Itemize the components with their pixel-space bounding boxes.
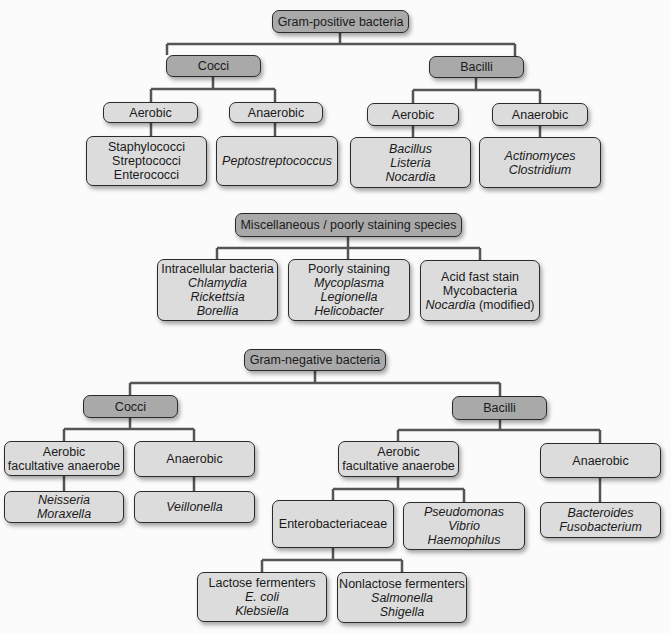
gp-bacilli-aerobic-examples: Bacillus Listeria Nocardia	[350, 137, 471, 188]
gn-bacilli-anaerobic-node: Anaerobic	[540, 443, 661, 478]
gp-cocci-aerobic-examples: Staphylococci Streptococci Enterococci	[86, 136, 207, 186]
gp-bacilli-aerobic-node: Aerobic	[367, 103, 459, 126]
gp-bacilli-anaerobic-examples: Actinomyces Clostridium	[479, 137, 601, 188]
gram-positive-node: Gram-positive bacteria	[272, 10, 409, 33]
gram-negative-bacilli-node: Bacilli	[452, 396, 547, 420]
nonlactose-fermenters-node: Nonlactose fermenters Salmonella Shigell…	[337, 572, 467, 623]
misc-poorly-staining-node: Poorly staining Mycoplasma Legionella He…	[288, 259, 410, 321]
diagram-canvas: Gram-positive bacteria Cocci Bacilli Aer…	[0, 0, 671, 633]
gram-negative-cocci-node: Cocci	[83, 395, 178, 418]
acid-fast-nocardia-line: Nocardia (modified)	[425, 298, 534, 312]
gn-bacilli-anaerobic-examples: Bacteroides Fusobacterium	[540, 502, 661, 538]
enterobacteriaceae-node: Enterobacteriaceae	[272, 500, 394, 548]
gn-cocci-anaerobic-examples: Veillonella	[134, 491, 255, 523]
gn-bacilli-aerobic-node: Aerobic facultative anaerobe	[338, 441, 459, 477]
gp-bacilli-anaerobic-node: Anaerobic	[492, 103, 588, 126]
gp-cocci-anaerobic-examples: Peptostreptococcus	[216, 136, 338, 186]
lactose-fermenters-node: Lactose fermenters E. coli Klebsiella	[197, 572, 327, 622]
gn-bacilli-aerobic-other-examples: Pseudomonas Vibrio Haemophilus	[403, 502, 525, 550]
gn-cocci-aerobic-examples: Neisseria Moraxella	[4, 491, 124, 523]
misc-intracellular-node: Intracellular bacteria Chlamydia Rickett…	[157, 259, 278, 321]
gram-positive-bacilli-node: Bacilli	[429, 56, 524, 78]
misc-species-node: Miscellaneous / poorly staining species	[235, 213, 462, 237]
gn-cocci-aerobic-node: Aerobic facultative anaerobe	[4, 441, 124, 476]
gn-cocci-anaerobic-node: Anaerobic	[134, 441, 255, 477]
misc-acid-fast-node: Acid fast stain Mycobacteria Nocardia (m…	[420, 260, 540, 321]
gram-negative-node: Gram-negative bacteria	[244, 349, 386, 371]
gp-cocci-anaerobic-node: Anaerobic	[229, 102, 323, 123]
gram-positive-cocci-node: Cocci	[166, 55, 261, 77]
gp-cocci-aerobic-node: Aerobic	[103, 102, 198, 123]
